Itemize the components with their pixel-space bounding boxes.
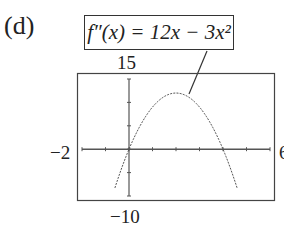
axes <box>82 79 270 196</box>
annotation-leader <box>189 51 207 94</box>
chart-canvas <box>0 0 284 235</box>
plot-frame <box>78 74 275 201</box>
function-curve <box>115 93 237 188</box>
